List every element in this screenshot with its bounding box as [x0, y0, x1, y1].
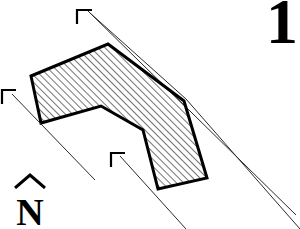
normal-arrow-bottom-head [111, 153, 125, 167]
figure-canvas: 1 N [0, 0, 300, 229]
circumflex-hat-icon [13, 173, 47, 189]
unit-normal-letter: N [8, 193, 52, 229]
normal-arrow-left-head [2, 90, 16, 104]
hatched-chevron-polygon [31, 44, 207, 189]
figure-number-label: 1 [266, 0, 296, 54]
unit-normal-symbol: N [8, 173, 52, 227]
